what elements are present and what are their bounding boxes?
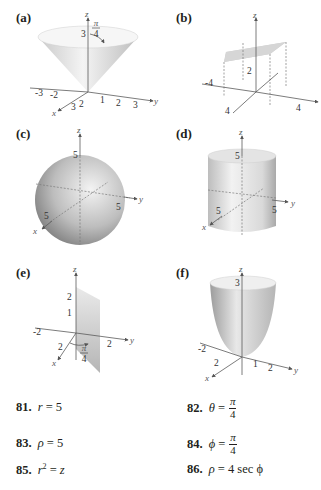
cylinder-graph: z y x 5 5 5 bbox=[160, 126, 320, 244]
paraboloid-surface bbox=[210, 283, 276, 357]
z-label: z bbox=[252, 10, 257, 20]
equation-rhs: z bbox=[60, 463, 65, 477]
tick-label: 2 bbox=[58, 342, 63, 352]
equation-lhs: ρ bbox=[209, 462, 215, 476]
tick-label: 2 bbox=[247, 66, 252, 76]
tick-label: 2 bbox=[214, 358, 219, 368]
y-axis bbox=[242, 357, 292, 369]
y-label: y bbox=[153, 96, 158, 106]
angle-denominator: 4 bbox=[82, 354, 87, 364]
equation-rhs: 5 bbox=[57, 436, 63, 450]
tick-label: 4 bbox=[296, 103, 301, 113]
exercise-number: 82. bbox=[187, 401, 203, 416]
y-label: y bbox=[290, 198, 295, 208]
panel-c: (c) z y x 5 5 5 bbox=[0, 126, 160, 244]
tick-label: 3 bbox=[133, 100, 138, 110]
x-label: x bbox=[51, 108, 56, 118]
x-label: x bbox=[204, 373, 209, 383]
x-label: x bbox=[51, 358, 56, 368]
tick-label: 2 bbox=[268, 363, 273, 373]
angle-numerator: π bbox=[94, 18, 99, 28]
half-plane-graph: z y x -2 2 2 2 1 π 4 bbox=[0, 265, 160, 383]
tick-label: -2 bbox=[33, 327, 41, 337]
exercise-86: 86. ρ = 4 sec ϕ bbox=[187, 462, 263, 477]
tick-label: 5 bbox=[116, 202, 121, 212]
tick-label: -3 bbox=[35, 88, 43, 98]
equation-rhs: 5 bbox=[56, 400, 62, 414]
panel-a: (a) z y x -3 -2 1 2 3 3 2 3 π 4 bbox=[0, 10, 160, 128]
vertical-half-plane bbox=[76, 287, 100, 373]
z-label: z bbox=[84, 9, 89, 19]
tick-label: -4 bbox=[205, 78, 213, 88]
equation-lhs: θ bbox=[209, 401, 215, 415]
z-label: z bbox=[238, 264, 243, 274]
z-label: z bbox=[72, 264, 77, 274]
tick-label: 3 bbox=[81, 29, 86, 39]
panel-b: (b) z -4 4 4 2 bbox=[160, 10, 320, 128]
cone-graph: z y x -3 -2 1 2 3 3 2 3 π 4 bbox=[0, 10, 160, 128]
tick-label: -2 bbox=[50, 90, 58, 100]
angle-denominator: 4 bbox=[94, 29, 99, 39]
z-label: z bbox=[76, 125, 81, 135]
tick-label: -2 bbox=[198, 344, 206, 354]
tick-label: 2 bbox=[107, 339, 112, 349]
panel-d: (d) z y x 5 5 5 bbox=[160, 126, 320, 244]
tick-label: 4 bbox=[225, 106, 230, 116]
panel-e: (e) z y x -2 2 2 2 1 π 4 bbox=[0, 265, 160, 383]
equation-lhs: ρ bbox=[38, 436, 44, 450]
tick-label: 1 bbox=[67, 308, 72, 318]
exercise-81: 81. r = 5 bbox=[16, 400, 62, 415]
sphere-graph: z y x 5 5 5 bbox=[0, 126, 160, 244]
equation-rhs-fraction: π4 bbox=[229, 432, 237, 456]
tick-label: 5 bbox=[216, 206, 221, 216]
tick-label: 2 bbox=[79, 99, 84, 109]
plane-graph: z -4 4 4 2 bbox=[160, 10, 320, 128]
angle-numerator: π bbox=[82, 343, 87, 353]
equation-lhs: r bbox=[38, 400, 43, 414]
y-label: y bbox=[138, 194, 143, 204]
y-axis bbox=[124, 197, 137, 199]
equation-rhs-fraction: π4 bbox=[229, 396, 237, 420]
tick-label: 5 bbox=[272, 205, 277, 215]
exercise-83: 83. ρ = 5 bbox=[16, 436, 63, 451]
x-label: x bbox=[32, 226, 37, 236]
x-axis bbox=[233, 92, 256, 113]
exercise-85: 85. r2 = z bbox=[16, 462, 65, 478]
panel-f: (f) z y x -2 1 2 2 3 bbox=[160, 265, 320, 383]
tick-label: 3 bbox=[71, 102, 76, 112]
tick-label: 5 bbox=[235, 151, 240, 161]
exercise-number: 84. bbox=[187, 437, 203, 452]
y-label: y bbox=[129, 335, 134, 345]
exercise-list: 81. r = 5 82. θ = π4 83. ρ = 5 84. ϕ = π… bbox=[0, 396, 321, 490]
tick-label: 2 bbox=[116, 98, 121, 108]
equation-rhs: 4 sec ϕ bbox=[228, 462, 263, 476]
x-label: x bbox=[201, 222, 206, 232]
y-axis bbox=[256, 92, 318, 102]
exercise-number: 83. bbox=[16, 436, 32, 451]
exercise-number: 86. bbox=[187, 462, 203, 477]
y-label: y bbox=[293, 365, 298, 375]
exercise-number: 81. bbox=[16, 400, 32, 415]
z-label: z bbox=[238, 127, 243, 137]
tick-label: 1 bbox=[253, 359, 258, 369]
exercise-number: 85. bbox=[16, 463, 32, 478]
neg-y-axis bbox=[35, 328, 76, 333]
tick-label: 5 bbox=[73, 150, 78, 160]
tick-label: 5 bbox=[44, 211, 49, 221]
tick-label: 1 bbox=[100, 95, 105, 105]
tick-label: 3 bbox=[235, 278, 240, 288]
exercise-84: 84. ϕ = π4 bbox=[187, 432, 237, 456]
equation-lhs: ϕ bbox=[209, 437, 215, 451]
exercise-82: 82. θ = π4 bbox=[187, 396, 236, 420]
paraboloid-graph: z y x -2 1 2 2 3 bbox=[160, 265, 320, 383]
equation-exponent: 2 bbox=[43, 462, 47, 471]
tick-label: 2 bbox=[67, 292, 72, 302]
paraboloid-rim bbox=[210, 276, 276, 290]
